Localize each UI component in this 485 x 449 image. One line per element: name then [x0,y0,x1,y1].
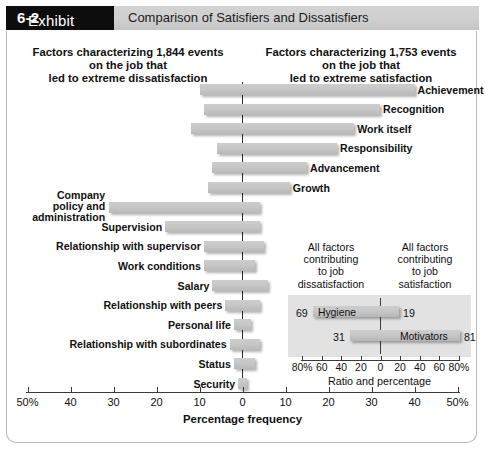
inset-axis-tick [381,356,382,360]
chart-bar [230,339,260,350]
x-axis-tick [372,387,373,392]
bar-label: Relationship with peers [103,300,222,311]
inset-axis-tick-label: 80% [292,362,313,373]
inset-axis-tick-label: 60 [316,362,328,373]
inset-axis-tick-label: 40 [414,362,426,373]
inset-value-left: 69 [296,307,308,319]
x-axis-tick [157,387,158,392]
chart-bar [234,358,256,369]
x-axis-tick [329,387,330,392]
chart-bar [204,260,256,271]
bar-label: Recognition [383,104,444,115]
x-axis-tick-label: 30 [107,396,119,408]
chart-bar [208,182,290,193]
bar-label: Work conditions [118,261,201,272]
inset-value-right: 19 [403,307,415,319]
inset-axis-line [301,360,460,361]
x-axis-tick [200,387,201,392]
x-axis-line [26,392,460,393]
chart-bar [212,280,268,291]
x-axis-tick [415,387,416,392]
x-axis-tick [114,387,115,392]
x-axis-tick [458,387,459,392]
inset-axis-tick [459,356,460,360]
chart-bar [191,123,354,134]
chart-bar [165,221,260,232]
inset-axis-tick [341,356,342,360]
chart-bar [234,319,251,330]
chart-bar [204,241,264,252]
chart-bar [109,202,260,213]
inset-bar-label: Motivators [400,331,448,342]
x-axis-tick [71,387,72,392]
chart-bar [200,84,415,95]
bar-label: Relationship with supervisor [56,241,201,252]
x-axis-tick-label: 20 [150,396,162,408]
bar-label: Salary [178,281,210,292]
bar-label: Status [199,359,231,370]
bar-label: Advancement [310,163,379,174]
inset-axis-tick-label: 20 [355,362,367,373]
exhibit-figure: Exhibit 6-2 Comparison of Satisfiers and… [0,0,485,449]
inset-value-left: 31 [333,331,345,343]
inset-axis-tick-label: 60 [434,362,446,373]
x-axis-tick-label: 50% [446,396,468,408]
chart-bar [212,162,307,173]
inset-axis-tick-label: 80% [448,362,469,373]
chart-bar [217,143,337,154]
x-axis-tick-label: 10 [193,396,205,408]
inset-axis-tick-label: 40 [336,362,348,373]
bar-label: Relationship with subordinates [69,339,226,350]
x-axis-tick-label: 50% [16,396,38,408]
bar-label: Responsibility [340,143,412,154]
bar-label: Supervision [101,222,162,233]
bar-label: Achievement [418,85,484,96]
x-axis-tick-label: 10 [279,396,291,408]
inset-axis-tick-label: 20 [394,362,406,373]
x-axis-tick-label: 0 [239,396,245,408]
x-axis-tick-label: 30 [365,396,377,408]
bar-label: Work itself [357,124,411,135]
x-axis-title: Percentage frequency [0,413,485,425]
inset-axis-tick [322,356,323,360]
chart-bar [204,104,380,115]
x-axis-tick [28,387,29,392]
inset-axis-tick [420,356,421,360]
bar-label: Personal life [168,320,231,331]
x-axis-tick-label: 20 [322,396,334,408]
bar-label: Growth [293,183,330,194]
x-axis-tick [243,387,244,392]
bar-label: Companypolicy andadministration [13,190,105,224]
x-axis-tick [286,387,287,392]
inset-value-right: 81 [464,331,476,343]
inset-axis-tick [439,356,440,360]
inset-axis-tick [302,356,303,360]
inset-axis-tick [400,356,401,360]
inset-bar-label: Hygiene [318,307,356,318]
inset-axis-tick [361,356,362,360]
chart-bar [225,300,259,311]
x-axis-tick-label: 40 [64,396,76,408]
inset-axis-title: Ratio and percentage [288,375,471,387]
inset-caption-dissatisfaction: All factorscontributingto jobdissatisfac… [288,241,374,290]
inset-axis-tick-label: 0 [378,362,384,373]
x-axis-tick-label: 40 [408,396,420,408]
inset-caption-satisfaction: All factorscontributingto jobsatisfactio… [382,241,468,290]
